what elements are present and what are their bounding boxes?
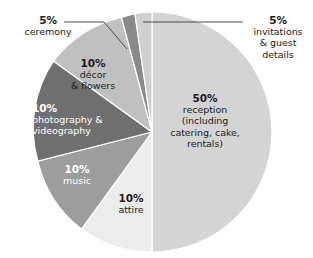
pie-chart: 5% ceremony 5% invitations & guest detai… (0, 0, 313, 258)
slice-percent-attire: 10% (100, 192, 162, 204)
slice-name-attire: attire (100, 204, 162, 215)
slice-label-reception: 50% reception (including catering, cake,… (152, 92, 258, 149)
slice-name-reception-line4: rentals) (152, 138, 258, 149)
slice-label-invitations: 5% invitations & guest details (246, 14, 310, 60)
slice-name-reception-line3: catering, cake, (152, 127, 258, 138)
slice-percent-ceremony: 5% (12, 14, 84, 26)
slice-name-invitations-line1: invitations (246, 26, 310, 37)
slice-label-decor: 10% décor & flowers (58, 57, 128, 92)
slice-percent-music: 10% (46, 163, 108, 175)
slice-name-photography-line2: videography (32, 125, 142, 136)
slice-percent-reception: 50% (152, 92, 258, 104)
slice-label-music: 10% music (46, 163, 108, 186)
slice-percent-decor: 10% (58, 57, 128, 69)
slice-name-decor-line2: & flowers (58, 80, 128, 91)
slice-name-reception-line1: reception (152, 104, 258, 115)
slice-name-invitations-line3: details (246, 49, 310, 60)
slice-name-reception-line2: (including (152, 115, 258, 126)
slice-name-photography-line1: photography & (32, 114, 142, 125)
slice-percent-photography: 10% (32, 102, 142, 114)
slice-label-photography: 10% photography & videography (32, 102, 142, 137)
slice-name-invitations-line2: & guest (246, 37, 310, 48)
slice-percent-invitations: 5% (246, 14, 310, 26)
slice-name-music: music (46, 175, 108, 186)
slice-label-attire: 10% attire (100, 192, 162, 215)
slice-label-ceremony: 5% ceremony (12, 14, 84, 37)
slice-name-ceremony: ceremony (12, 26, 84, 37)
slice-name-decor-line1: décor (58, 69, 128, 80)
